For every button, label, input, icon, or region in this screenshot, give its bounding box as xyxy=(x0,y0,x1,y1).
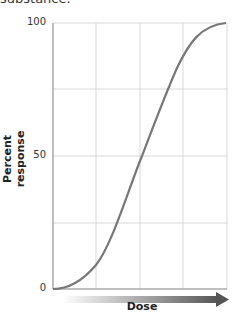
y-tick-100: 100 xyxy=(16,16,46,27)
x-axis-label: Dose xyxy=(112,300,172,313)
y-tick-50: 50 xyxy=(16,149,46,160)
y-tick-0: 0 xyxy=(16,282,46,293)
gridlines xyxy=(53,23,227,289)
chart-plot xyxy=(0,0,240,324)
